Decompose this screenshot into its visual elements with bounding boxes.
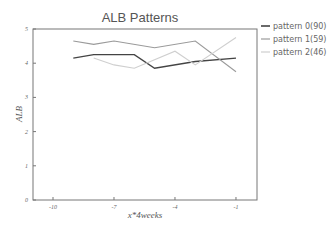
y-tick-label: 5 (25, 26, 28, 32)
x-axis-label: x*4weeks (127, 210, 163, 220)
x-axis: -10-7-4-1 (49, 197, 238, 210)
series-line-pattern-0 (73, 55, 236, 69)
x-tick-label: -7 (111, 204, 117, 210)
legend: pattern 0(90)pattern 1(59)pattern 2(46) (261, 22, 326, 57)
x-tick-label: -4 (172, 204, 177, 210)
x-tick-label: -10 (49, 204, 57, 210)
legend-label: pattern 2(46) (273, 48, 326, 57)
series-line-pattern-1 (73, 41, 236, 72)
y-tick-label: 2 (25, 129, 28, 135)
y-axis-label: ALB (14, 106, 24, 124)
y-tick-label: 0 (25, 197, 28, 203)
line-chart: ALB Patterns 012345 -10-7-4-1 x*4weeks A… (0, 0, 334, 229)
plot-frame (33, 29, 257, 200)
y-tick-label: 1 (25, 163, 28, 169)
y-tick-label: 3 (24, 94, 28, 100)
series-line-pattern-2 (94, 38, 236, 69)
x-tick-label: -1 (233, 204, 238, 210)
series-group (73, 38, 236, 72)
chart-title: ALB Patterns (102, 10, 179, 25)
legend-label: pattern 1(59) (273, 35, 326, 44)
legend-label: pattern 0(90) (273, 22, 326, 31)
y-tick-label: 4 (25, 60, 28, 66)
y-axis: 012345 (24, 26, 36, 203)
